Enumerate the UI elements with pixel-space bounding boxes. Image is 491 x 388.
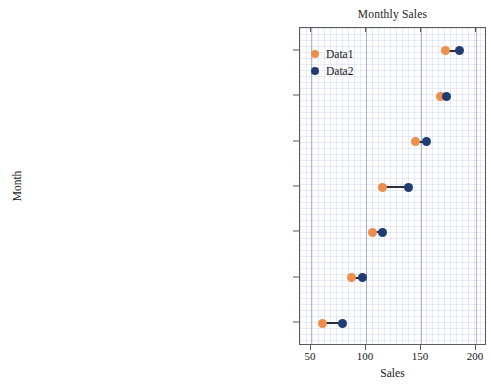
y-tick (293, 276, 299, 277)
x-tick-label-50: 50 (305, 350, 316, 362)
gridline-x-100 (366, 28, 367, 344)
y-tick (293, 231, 299, 232)
gridline-x-150 (421, 28, 422, 344)
data-point-data1[interactable] (378, 183, 387, 192)
legend-item-data2[interactable]: Data2 (311, 63, 353, 78)
x-tick-top-100 (365, 27, 366, 32)
chart-root: Monthly Sales 50100150200 hsa03780:Adipo… (0, 0, 491, 388)
data-point-data2[interactable] (442, 92, 451, 101)
x-tick-top-50 (310, 27, 311, 32)
y-tick (293, 186, 299, 187)
x-axis-title: Sales (299, 367, 486, 379)
x-tick-label-100: 100 (357, 350, 374, 362)
x-tick-label-200: 200 (467, 350, 484, 362)
data-point-data2[interactable] (404, 183, 413, 192)
x-tick-top-200 (475, 27, 476, 32)
y-tick (293, 95, 299, 96)
data-point-data1[interactable] (441, 46, 450, 55)
chart-title: Monthly Sales (299, 8, 486, 20)
y-tick (293, 49, 299, 50)
data-point-data2[interactable] (378, 228, 387, 237)
data-point-data2[interactable] (422, 137, 431, 146)
y-axis-title: Month (11, 171, 23, 202)
y-tick (293, 322, 299, 323)
gridline-x-200 (476, 28, 477, 344)
legend-item-data1[interactable]: Data1 (311, 46, 353, 61)
legend: Data1 Data2 (311, 46, 353, 80)
legend-swatch-data1 (311, 50, 319, 58)
legend-label-data1: Data1 (326, 48, 353, 60)
legend-swatch-data2 (311, 67, 319, 75)
legend-label-data2: Data2 (326, 65, 353, 77)
x-tick-label-150: 150 (412, 350, 429, 362)
x-tick-top-150 (420, 27, 421, 32)
data-point-data1[interactable] (411, 137, 420, 146)
data-point-data1[interactable] (318, 319, 327, 328)
y-tick (293, 140, 299, 141)
data-point-data1[interactable] (368, 228, 377, 237)
